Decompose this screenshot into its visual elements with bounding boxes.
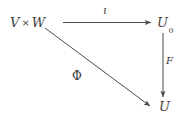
node-u-zero: U0: [157, 16, 173, 33]
times-symbol: ×: [19, 17, 31, 28]
node-v-times-w: V×W: [10, 16, 45, 29]
node-u0-subscript: 0: [168, 26, 173, 35]
node-u: U: [159, 100, 170, 113]
node-w-label: W: [32, 15, 45, 30]
arrow-label-f: F: [166, 56, 173, 66]
node-v-label: V: [10, 15, 19, 30]
arrow-label-phi: Φ: [72, 70, 82, 82]
arrow-label-iota: ι: [103, 5, 107, 16]
arrow-phi: [45, 28, 150, 106]
commutative-diagram: V×W U0 U ι F Φ: [0, 0, 189, 130]
node-u0-base: U: [157, 15, 168, 30]
